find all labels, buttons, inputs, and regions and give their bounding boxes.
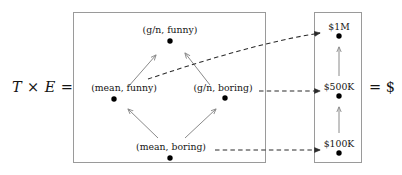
- dot-gn-boring: [222, 95, 227, 100]
- dot-100k: [336, 150, 341, 155]
- node-label-gn-boring: (g/n, boring): [193, 82, 252, 93]
- dot-gn-funny: [167, 38, 172, 43]
- dot-mean-funny: [111, 96, 116, 101]
- node-label-gn-funny: (g/n, funny): [143, 24, 198, 35]
- map-arrow-mean-funny-to-1m: [148, 33, 320, 79]
- dot-500k: [336, 93, 341, 98]
- dot-1m: [336, 33, 341, 38]
- dot-mean-boring: [167, 155, 172, 160]
- diagram-canvas: T × E = = $: [0, 0, 402, 175]
- order-arrow-mean-boring-to-mean-funny: [128, 109, 158, 138]
- order-arrow-mean-boring-to-gn-boring: [185, 109, 216, 138]
- money-label-1m: $1M: [328, 21, 349, 32]
- node-label-mean-funny: (mean, funny): [91, 82, 157, 93]
- node-label-mean-boring: (mean, boring): [136, 141, 206, 152]
- money-label-500k: $500K: [324, 81, 355, 92]
- money-label-100k: $100K: [324, 138, 355, 149]
- order-arrow-gn-boring-to-gn-funny: [185, 53, 210, 85]
